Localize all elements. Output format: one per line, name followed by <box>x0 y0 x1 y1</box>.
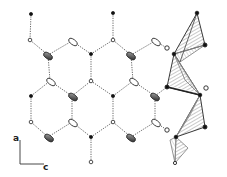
atom-ellipsoid-open <box>67 118 78 128</box>
atom-open <box>28 38 32 42</box>
polyhedral-chain <box>165 11 208 164</box>
atom-ellipsoid-open <box>128 77 139 87</box>
atom-dark <box>89 135 92 138</box>
atom-open <box>89 160 93 164</box>
axis-label-a: a <box>13 134 19 143</box>
atom-ellipsoid-dark <box>125 133 136 143</box>
atom-ellipsoid-open <box>150 37 161 47</box>
axis-label-c: c <box>43 163 48 172</box>
atom-ellipsoid-dark <box>67 92 78 102</box>
atom-dark <box>111 11 114 14</box>
atom-open <box>89 79 93 83</box>
atom-dark <box>29 12 32 15</box>
atom-open <box>111 38 115 42</box>
atom-ellipsoid-open <box>67 37 78 47</box>
crystal-structure-figure: a c <box>0 0 227 177</box>
atom-ellipsoid-dark <box>42 51 53 61</box>
atom-ellipsoid-open <box>150 118 161 128</box>
atom-dark <box>111 94 114 97</box>
atom-ellipsoid-dark <box>125 51 136 61</box>
atoms <box>28 11 161 163</box>
atom-dark <box>29 94 32 97</box>
atom-open <box>29 120 33 124</box>
atom-open <box>111 120 115 124</box>
axis-indicator <box>20 140 44 164</box>
atom-dark <box>89 52 92 55</box>
structure-drawing <box>0 0 227 177</box>
atom-ellipsoid-open <box>45 77 56 87</box>
